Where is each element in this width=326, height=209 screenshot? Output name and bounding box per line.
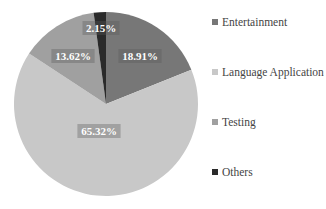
legend-label: Language Application — [222, 66, 324, 78]
data-label: 13.62% — [55, 50, 91, 62]
pie-chart: 18.91%65.32%13.62%2.15% — [0, 0, 212, 209]
legend-label: Testing — [222, 116, 256, 128]
data-label: 2.15% — [86, 22, 116, 34]
legend: Entertainment Language Application Testi… — [212, 0, 326, 209]
legend-label: Entertainment — [222, 16, 287, 28]
legend-swatch — [212, 69, 218, 75]
legend-item-language-application: Language Application — [212, 66, 324, 78]
legend-label: Others — [222, 166, 253, 178]
legend-swatch — [212, 19, 218, 25]
data-label: 65.32% — [81, 125, 117, 137]
legend-swatch — [212, 169, 218, 175]
legend-swatch — [212, 119, 218, 125]
legend-item-entertainment: Entertainment — [212, 16, 287, 28]
data-label: 18.91% — [122, 50, 158, 62]
legend-item-testing: Testing — [212, 116, 256, 128]
pie-slices — [14, 12, 198, 196]
legend-item-others: Others — [212, 166, 253, 178]
